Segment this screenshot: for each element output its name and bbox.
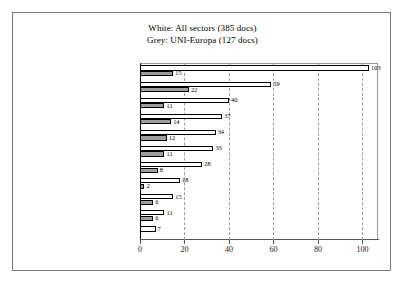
legend-entry-grey: Grey: UNI-Europa (127 docs)	[13, 34, 392, 46]
chart-row: Enlargement156	[140, 192, 378, 208]
chart-row: Employment3412	[140, 127, 378, 143]
bar-value-label: 40	[231, 97, 237, 103]
bar-value-label: 15	[175, 194, 181, 200]
chart-row: Economic and/or sectoral pol.10315	[140, 63, 378, 79]
chart-row: Training4011	[140, 95, 378, 111]
chart-legend: White: All sectors (385 docs) Grey: UNI-…	[13, 22, 392, 46]
bar-value-label: 14	[173, 119, 179, 125]
chart-row: Sustainable development7	[140, 224, 378, 240]
bar-all-sectors	[140, 210, 164, 215]
bar-value-label: 33	[215, 145, 221, 151]
chart-row: Social dialogue5922	[140, 79, 378, 95]
bar-value-label: 8	[160, 167, 163, 173]
bar-all-sectors	[140, 146, 213, 151]
chart-screenshot: White: All sectors (385 docs) Grey: UNI-…	[0, 0, 403, 284]
bar-value-label: 6	[155, 215, 158, 221]
bar-value-label: 28	[204, 161, 210, 167]
bar-all-sectors	[140, 65, 369, 70]
chart-row: Soc. aspects of Community pol.288	[140, 160, 378, 176]
bar-uni-europa	[140, 184, 144, 189]
bar-value-label: 2	[146, 183, 149, 189]
bar-value-label: 12	[169, 135, 175, 141]
x-tick	[273, 240, 274, 244]
bar-all-sectors	[140, 162, 202, 167]
chart-row: Working conditions3714	[140, 111, 378, 127]
bar-uni-europa	[140, 216, 153, 221]
x-tick-label: 100	[350, 245, 374, 254]
bar-value-label: 34	[218, 129, 224, 135]
bar-uni-europa	[140, 87, 189, 92]
bar-uni-europa	[140, 103, 164, 108]
chart-row: Non-discrimination116	[140, 208, 378, 224]
chart-row: Health and safety3311	[140, 143, 378, 159]
clipped-caption	[0, 0, 403, 8]
bar-uni-europa	[140, 71, 173, 76]
bar-uni-europa	[140, 119, 171, 124]
x-tick	[318, 240, 319, 244]
bar-value-label: 37	[224, 113, 230, 119]
x-tick	[362, 240, 363, 244]
bar-uni-europa	[140, 135, 167, 140]
bar-value-label: 11	[166, 151, 172, 157]
legend-entry-white: White: All sectors (385 docs)	[13, 22, 392, 34]
bar-value-label: 6	[155, 199, 158, 205]
bar-uni-europa	[140, 151, 164, 156]
bar-all-sectors	[140, 114, 222, 119]
bar-value-label: 18	[182, 177, 188, 183]
x-tick	[229, 240, 230, 244]
bar-value-label: 11	[166, 210, 172, 216]
bar-uni-europa	[140, 200, 153, 205]
bar-all-sectors	[140, 82, 271, 87]
bar-value-label: 11	[166, 103, 172, 109]
x-tick-label: 20	[172, 245, 196, 254]
x-tick-label: 60	[261, 245, 285, 254]
chart-row: Working time182	[140, 176, 378, 192]
bar-value-label: 7	[158, 226, 161, 232]
bar-all-sectors	[140, 226, 156, 231]
x-tick-label: 0	[128, 245, 152, 254]
bar-value-label: 59	[273, 81, 279, 87]
bar-all-sectors	[140, 130, 216, 135]
x-tick	[184, 240, 185, 244]
bar-value-label: 15	[175, 70, 181, 76]
bar-value-label: 103	[371, 65, 381, 71]
x-tick-label: 80	[306, 245, 330, 254]
bar-all-sectors	[140, 98, 229, 103]
x-tick	[140, 240, 141, 244]
x-tick-label: 40	[217, 245, 241, 254]
bar-value-label: 22	[191, 87, 197, 93]
bar-uni-europa	[140, 168, 158, 173]
plot-area: Economic and/or sectoral pol.10315Social…	[140, 63, 378, 240]
